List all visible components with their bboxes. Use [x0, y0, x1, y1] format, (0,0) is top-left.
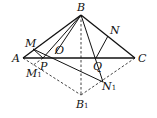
label-A: A — [12, 53, 20, 64]
label-B: B — [77, 2, 85, 13]
label-B1-main: B — [76, 98, 84, 111]
label-M1-sub: 1 — [37, 71, 41, 79]
label-C: C — [138, 53, 146, 64]
label-B1-sub: 1 — [84, 102, 88, 110]
label-M1-main: M — [26, 67, 37, 80]
label-N1: N1 — [102, 81, 116, 92]
label-M1: M1 — [26, 68, 42, 79]
label-N: N — [110, 25, 120, 36]
label-O: O — [55, 45, 64, 56]
label-N1-sub: 1 — [112, 84, 116, 92]
label-M: M — [25, 38, 36, 49]
label-N1-main: N — [102, 80, 112, 93]
label-B1: B1 — [76, 99, 89, 110]
label-Q: Q — [93, 61, 102, 72]
segment-QN — [96, 36, 108, 58]
